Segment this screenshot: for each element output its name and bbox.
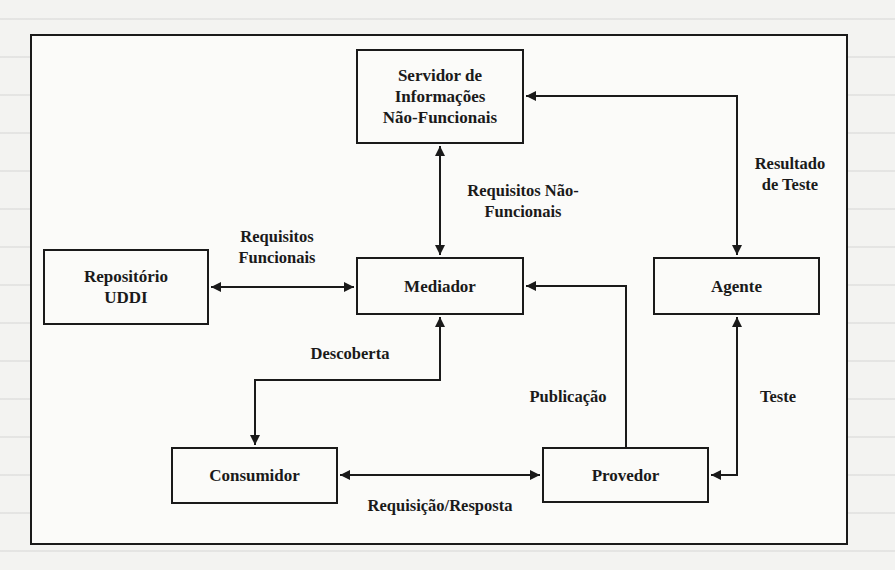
node-label: Informações: [395, 86, 486, 107]
node-repositorio-uddi: Repositório UDDI: [43, 249, 209, 325]
arrow-descoberta: [255, 317, 440, 445]
node-label: Repositório: [84, 266, 168, 287]
node-label: UDDI: [104, 287, 147, 308]
edge-label-teste: Teste: [748, 386, 808, 407]
edge-label-requisitos-funcionais: Requisitos Funcionais: [222, 226, 332, 268]
arrow-resultado-de-teste: [526, 96, 737, 255]
node-label: Mediador: [404, 276, 476, 297]
node-label: Agente: [711, 276, 762, 297]
edge-label-resultado-de-teste: Resultado de Teste: [745, 153, 835, 195]
edge-label-requisicao-resposta: Requisição/Resposta: [345, 495, 535, 516]
node-provedor: Provedor: [542, 447, 709, 503]
arrow-publicacao: [526, 286, 626, 447]
edge-label-descoberta: Descoberta: [290, 343, 410, 364]
node-label: Servidor de: [398, 65, 482, 86]
node-label: Provedor: [592, 465, 660, 486]
node-mediador: Mediador: [356, 257, 524, 315]
node-label: Consumidor: [209, 465, 300, 486]
node-servidor-informacoes-nao-funcionais: Servidor de Informações Não-Funcionais: [356, 49, 524, 144]
node-consumidor: Consumidor: [171, 447, 338, 504]
node-label: Não-Funcionais: [383, 107, 497, 128]
arrow-teste: [711, 317, 737, 475]
node-agente: Agente: [653, 257, 820, 315]
edge-label-publicacao: Publicação: [518, 386, 618, 407]
edge-label-requisitos-nao-funcionais: Requisitos Não- Funcionais: [453, 180, 593, 222]
